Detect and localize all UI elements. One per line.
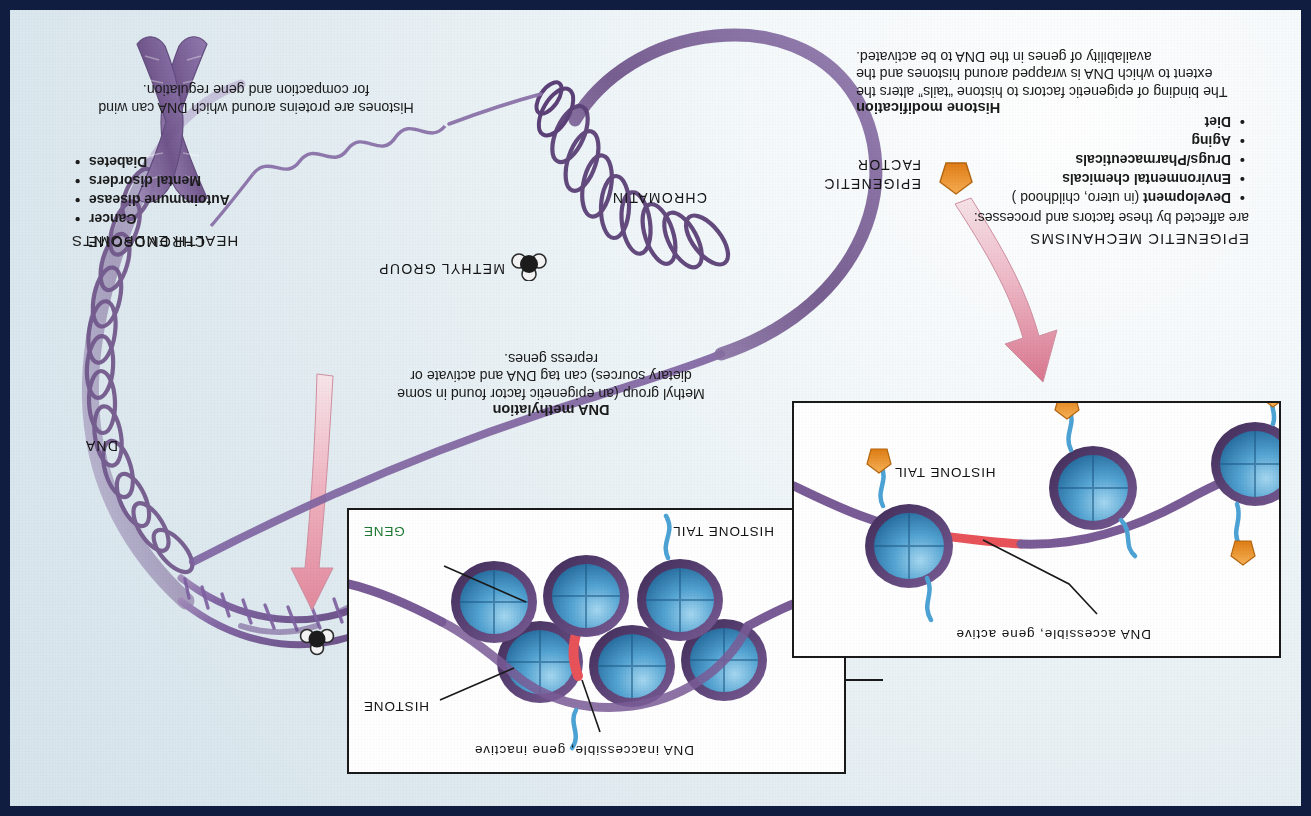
poster-canvas: DNA inaccessible, gene inactive HISTONE … (10, 10, 1301, 806)
section-epigenetic-mechanisms: EPIGENETIC MECHANISMS are affected by th… (919, 112, 1249, 248)
mechanism-item-label: Aging (1191, 133, 1231, 149)
section-epigenetic-mechanisms-lead: are affected by these factors and proces… (919, 209, 1249, 226)
poster-frame: DNA inaccessible, gene inactive HISTONE … (0, 0, 1311, 816)
health-endpoints-list: CancerAutoimmune diseaseMental disorders… (71, 152, 371, 228)
open-chromatin-art (794, 403, 1279, 656)
health-endpoint-item: Mental disorders (71, 171, 371, 190)
callout-histone-note: Histones are proteins around which DNA c… (91, 81, 421, 116)
health-endpoint-item: Cancer (71, 209, 371, 228)
mechanism-item: Diet (919, 112, 1249, 131)
callout-dna-methylation-title: DNA methylation (386, 402, 716, 418)
label-histone-tail-open: HISTONE TAIL (894, 465, 996, 480)
mechanism-item-label: Diet (1205, 114, 1231, 130)
callout-histone-modification-body: The binding of epigenetic factors to his… (856, 48, 1261, 101)
mechanism-item-label: Drugs/Pharmaceuticals (1075, 152, 1231, 168)
panel-open-chromatin: DNA accessible, gene active HISTONE TAIL (792, 401, 1281, 658)
callout-dna-methylation-body: Methyl group (an epigenetic factor found… (386, 350, 716, 403)
label-dna-accessible: DNA accessible, gene active (956, 627, 1151, 642)
mechanism-item-label: Environmental chemicals (1062, 171, 1231, 187)
methyl-group-molecule-on-dna (301, 630, 334, 655)
section-health-endpoints-heading: HEALTH ENDPOINTS (71, 233, 371, 250)
health-endpoint-item: Diabetes (71, 152, 371, 171)
label-dna: DNA (85, 438, 118, 454)
methylation-arrow (291, 374, 333, 610)
section-health-endpoints: HEALTH ENDPOINTS CancerAutoimmune diseas… (71, 152, 371, 250)
panel-closed-chromatin: DNA inaccessible, gene inactive HISTONE … (347, 508, 846, 774)
mechanism-item: Development (in utero, childhood ) (919, 188, 1249, 207)
mechanism-item: Aging (919, 131, 1249, 150)
epigenetic-mechanisms-list: Development (in utero, childhood )Enviro… (919, 112, 1249, 207)
callout-histone-note-body: Histones are proteins around which DNA c… (91, 81, 421, 116)
rotated-poster-wrapper: DNA inaccessible, gene inactive HISTONE … (10, 10, 1301, 806)
label-chromatin: CHROMATIN (612, 190, 707, 206)
label-dna-inaccessible: DNA inaccessible, gene inactive (474, 743, 694, 758)
label-histone: HISTONE (363, 699, 429, 714)
mechanism-item-label: Development (1143, 190, 1231, 206)
callout-histone-modification: Histone modification The binding of epig… (856, 48, 1261, 117)
section-epigenetic-mechanisms-heading: EPIGENETIC MECHANISMS (919, 231, 1249, 248)
label-histone-tail-closed: HISTONE TAIL (672, 524, 774, 539)
label-gene: GENE (363, 524, 405, 539)
label-epigenetic-factor-line2: FACTOR (857, 157, 921, 173)
methyl-group-icon (511, 249, 547, 281)
health-endpoint-item: Autoimmune disease (71, 190, 371, 209)
closed-chromatin-art (349, 510, 844, 772)
label-methyl-group: METHYL GROUP (378, 261, 505, 277)
label-epigenetic-factor-line1: EPIGENETIC (823, 176, 921, 192)
mechanism-item-note: (in utero, childhood ) (1012, 190, 1144, 206)
callout-dna-methylation: DNA methylation Methyl group (an epigene… (386, 350, 716, 419)
mechanism-item: Drugs/Pharmaceuticals (919, 150, 1249, 169)
mechanism-item: Environmental chemicals (919, 169, 1249, 188)
